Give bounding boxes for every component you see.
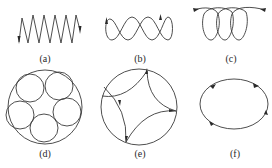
arrow-icon bbox=[253, 83, 259, 88]
arrow-icon bbox=[159, 14, 162, 20]
arrow-icon bbox=[18, 36, 21, 44]
panel-label-c: (c) bbox=[225, 54, 236, 64]
panel-label-a: (a) bbox=[39, 54, 50, 64]
panel-b-figure-eight-chain bbox=[105, 14, 173, 40]
panel-e-concave-arcs bbox=[101, 68, 177, 145]
figure-canvas bbox=[0, 0, 272, 168]
arrow-icon bbox=[145, 68, 148, 74]
panel-c-loops bbox=[193, 7, 266, 40]
panel-label-b: (b) bbox=[134, 54, 146, 64]
panel-label-d: (d) bbox=[39, 149, 51, 159]
arrow-icon bbox=[79, 26, 82, 34]
panel-f-ellipse bbox=[200, 79, 268, 129]
panel-label-e: (e) bbox=[134, 149, 145, 159]
panel-d-five-circles bbox=[6, 70, 82, 144]
panel-a-zigzag bbox=[18, 15, 82, 44]
panel-label-f: (f) bbox=[230, 149, 240, 159]
